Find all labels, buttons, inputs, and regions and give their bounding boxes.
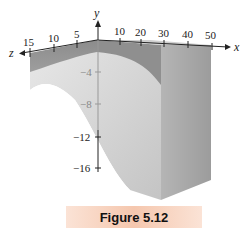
z-axis-label: z: [8, 46, 14, 60]
x-tick-30: 30: [158, 27, 170, 39]
y-tick-neg8: −8: [80, 98, 92, 110]
z-tick-10: 10: [48, 32, 60, 44]
figure-caption: Figure 5.12: [100, 210, 169, 225]
z-tick-5: 5: [74, 28, 80, 40]
x-tick-10: 10: [114, 25, 126, 37]
figure-caption-bar: Figure 5.12: [66, 206, 202, 228]
surface-3d-figure: z 15 10 5 x 10 20 30 40 50 y −4 −8 −12 −…: [0, 0, 249, 236]
y-tick-neg16: −16: [73, 162, 91, 174]
x-axis-label: x: [233, 40, 240, 54]
x-tick-20: 20: [135, 26, 147, 38]
z-axis-arrow-icon: [19, 50, 25, 56]
x-axis-arrow-icon: [225, 44, 231, 50]
x-tick-50: 50: [205, 29, 217, 41]
y-tick-neg12: −12: [73, 131, 90, 143]
side-face: [161, 45, 211, 200]
y-axis-arrow-icon: [95, 20, 101, 27]
y-tick-neg4: −4: [80, 66, 92, 78]
y-axis-label: y: [93, 6, 100, 20]
z-tick-15: 15: [23, 36, 35, 48]
x-tick-40: 40: [182, 28, 194, 40]
